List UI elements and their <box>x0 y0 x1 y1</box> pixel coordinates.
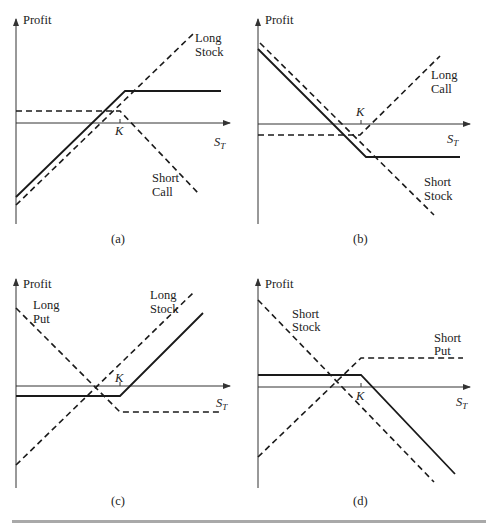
panel-d: Profit ST K Short Stock Short Put (d) <box>258 277 470 508</box>
y-axis-label: Profit <box>23 13 52 27</box>
series-label-long-stock: Long <box>195 31 222 45</box>
series-label-short-put-2: Put <box>434 344 451 358</box>
panel-caption: (a) <box>111 232 125 246</box>
series-label-long-stock-2: Stock <box>195 45 224 59</box>
series-label-long-call: Long <box>431 68 458 82</box>
series-label-short-call: Short <box>152 171 180 185</box>
series-label-short-stock-2: Stock <box>292 320 321 334</box>
figure-canvas: Profit ST K Long Stock Short Call (a) Pr… <box>0 0 486 531</box>
short-stock-line <box>258 300 434 482</box>
series-label-long-put-2: Put <box>33 312 50 326</box>
panel-caption: (c) <box>111 494 125 508</box>
series-label-short-put: Short <box>434 331 462 345</box>
x-axis-label: ST <box>447 132 459 148</box>
series-label-short-call-2: Call <box>152 185 173 199</box>
panel-c: Profit ST K Long Put Long Stock (c) <box>16 277 230 508</box>
x-axis-label: ST <box>216 396 228 412</box>
series-label-long-call-2: Call <box>431 82 452 96</box>
short-put-line <box>258 358 463 457</box>
strike-label: K <box>355 105 365 119</box>
panel-a: Profit ST K Long Stock Short Call (a) <box>16 13 230 246</box>
x-axis-label: ST <box>456 395 468 411</box>
bottom-divider <box>12 520 486 523</box>
short-stock-line <box>260 43 434 215</box>
panel-caption: (d) <box>353 494 368 508</box>
series-label-short-stock: Short <box>424 175 452 189</box>
panel-b: Profit ST K Long Call Short Stock (b) <box>258 13 470 246</box>
strike-label: K <box>114 124 124 138</box>
y-axis-label: Profit <box>265 277 294 291</box>
series-label-long-stock-2: Stock <box>150 302 179 316</box>
series-label-short-stock-2: Stock <box>424 189 453 203</box>
panel-caption: (b) <box>353 232 368 246</box>
y-axis-label: Profit <box>265 13 294 27</box>
y-axis-label: Profit <box>23 277 52 291</box>
strike-label: K <box>114 371 124 385</box>
x-axis-label: ST <box>214 135 226 151</box>
series-label-long-stock: Long <box>150 288 177 302</box>
series-label-long-put: Long <box>33 298 60 312</box>
strike-label: K <box>355 389 365 403</box>
series-label-short-stock: Short <box>292 307 320 321</box>
